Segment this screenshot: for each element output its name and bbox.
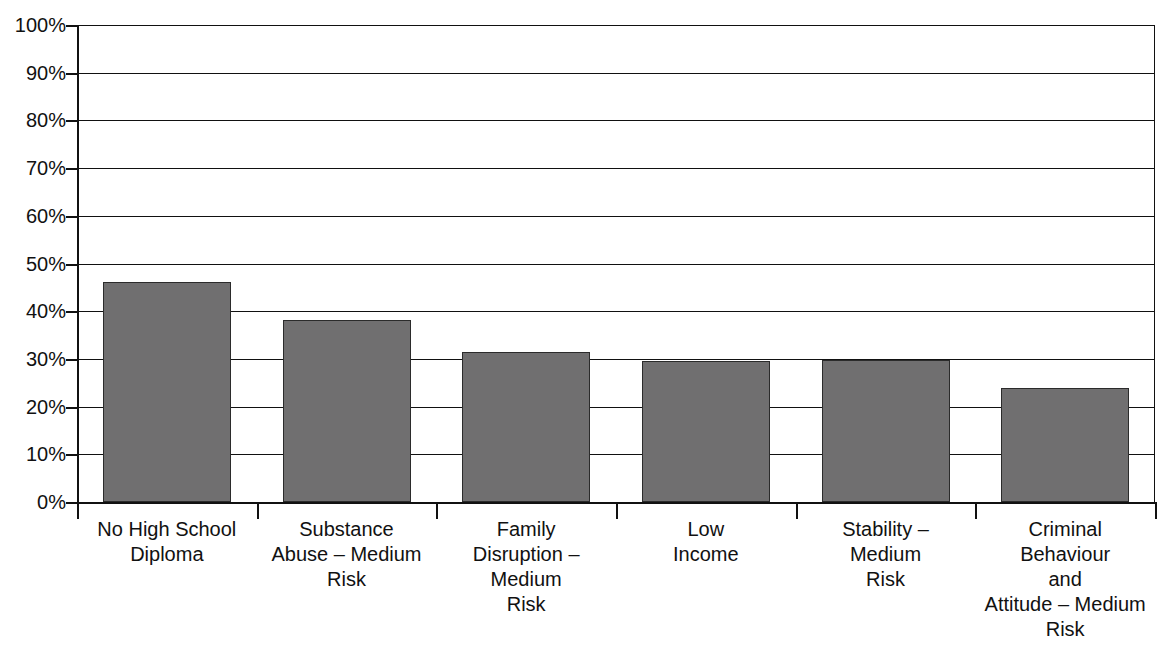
y-tick-label-10: 10%: [0, 444, 66, 464]
bar: [103, 282, 231, 502]
bar: [1001, 388, 1129, 502]
x-axis-label: FamilyDisruption – MediumRisk: [436, 517, 616, 617]
x-axis-label-line: Criminal: [975, 517, 1155, 542]
x-axis-label-line: Stability –: [796, 517, 976, 542]
x-axis-label: SubstanceAbuse – MediumRisk: [257, 517, 437, 592]
gridline-40: [77, 311, 1155, 312]
plot-area: [77, 25, 1155, 502]
y-tick-label-40: 40%: [0, 301, 66, 321]
x-axis-label-line: Diploma: [77, 542, 257, 567]
y-tick-label-70: 70%: [0, 158, 66, 178]
x-axis-label-line: No High School: [77, 517, 257, 542]
gridline-60: [77, 216, 1155, 217]
y-tick-mark-10: [66, 454, 77, 456]
y-tick-mark-70: [66, 168, 77, 170]
x-axis-label: Stability –MediumRisk: [796, 517, 976, 592]
y-tick-label-30: 30%: [0, 349, 66, 369]
y-tick-mark-30: [66, 359, 77, 361]
x-axis-label-line: Risk: [975, 617, 1155, 642]
y-tick-label-100: 100%: [0, 15, 66, 35]
y-tick-mark-100: [66, 25, 77, 27]
gridline-90: [77, 73, 1155, 74]
y-tick-mark-80: [66, 120, 77, 122]
x-axis-label-line: Substance: [257, 517, 437, 542]
gridline-100: [77, 25, 1155, 26]
y-tick-label-80: 80%: [0, 110, 66, 130]
gridline-50: [77, 264, 1155, 265]
gridline-70: [77, 168, 1155, 169]
y-tick-mark-50: [66, 264, 77, 266]
y-tick-mark-0: [66, 502, 77, 504]
bar: [822, 360, 950, 502]
y-tick-label-50: 50%: [0, 254, 66, 274]
y-tick-label-0: 0%: [0, 492, 66, 512]
x-axis-label-line: Disruption – Medium: [436, 542, 616, 592]
bar-chart: 0%10%20%30%40%50%60%70%80%90%100% No Hig…: [0, 0, 1167, 645]
y-tick-label-90: 90%: [0, 63, 66, 83]
gridline-20: [77, 407, 1155, 408]
bar: [462, 352, 590, 502]
gridline-10: [77, 454, 1155, 455]
x-axis-label-line: Abuse – Medium: [257, 542, 437, 567]
x-axis-label-line: Income: [616, 542, 796, 567]
bar: [283, 320, 411, 502]
x-axis-label-line: Low: [616, 517, 796, 542]
x-axis-label-line: Behaviour: [975, 542, 1155, 567]
x-axis-label: No High SchoolDiploma: [77, 517, 257, 567]
bar: [642, 361, 770, 502]
x-axis-label: CriminalBehaviourandAttitude – MediumRis…: [975, 517, 1155, 642]
gridline-80: [77, 120, 1155, 121]
x-axis-label-line: Risk: [257, 567, 437, 592]
x-axis-label-line: Family: [436, 517, 616, 542]
y-tick-mark-60: [66, 216, 77, 218]
y-tick-label-20: 20%: [0, 397, 66, 417]
gridline-30: [77, 359, 1155, 360]
x-axis-label-line: Risk: [796, 567, 976, 592]
y-tick-mark-90: [66, 73, 77, 75]
x-axis-label-line: Attitude – Medium: [975, 592, 1155, 617]
y-tick-label-60: 60%: [0, 206, 66, 226]
x-tick-mark: [1155, 502, 1157, 519]
x-axis-label-line: Medium: [796, 542, 976, 567]
x-axis-label: LowIncome: [616, 517, 796, 567]
x-axis-label-line: Risk: [436, 592, 616, 617]
x-axis-label-line: and: [975, 567, 1155, 592]
y-tick-mark-20: [66, 407, 77, 409]
y-tick-mark-40: [66, 311, 77, 313]
